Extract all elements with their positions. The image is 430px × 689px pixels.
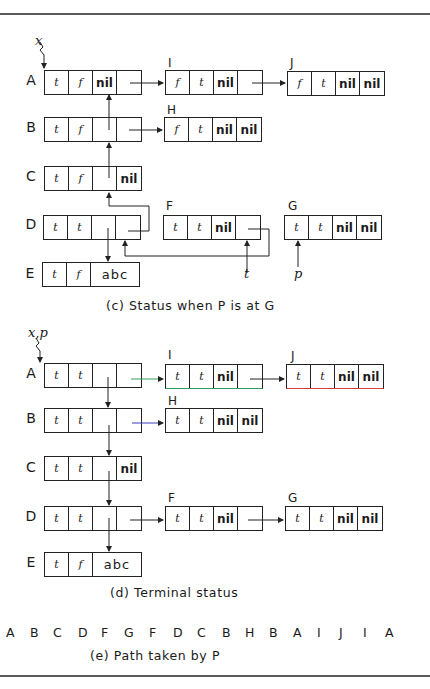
pointer-arrows [0,0,430,689]
